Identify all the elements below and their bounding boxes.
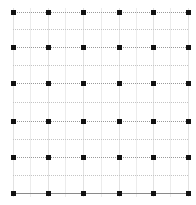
- lattice-point: [186, 10, 191, 15]
- lattice-point: [186, 81, 191, 86]
- grid-horizontal-minor-line: [13, 175, 188, 176]
- lattice-point: [151, 119, 156, 124]
- grid-horizontal-line: [13, 193, 188, 194]
- lattice-point: [81, 155, 86, 160]
- grid-horizontal-minor-line: [13, 29, 188, 30]
- dot-lattice-diagram: [0, 0, 196, 205]
- lattice-point: [81, 10, 86, 15]
- lattice-point: [151, 81, 156, 86]
- grid-horizontal-line: [13, 157, 188, 158]
- lattice-point: [46, 45, 51, 50]
- lattice-point: [11, 119, 16, 124]
- lattice-point: [117, 81, 122, 86]
- lattice-point: [11, 155, 16, 160]
- lattice-point: [151, 45, 156, 50]
- lattice-point: [46, 119, 51, 124]
- lattice-point: [11, 191, 16, 196]
- lattice-point: [117, 119, 122, 124]
- lattice-point: [117, 10, 122, 15]
- grid-horizontal-minor-line: [13, 139, 188, 140]
- grid-horizontal-line: [13, 121, 188, 122]
- lattice-point: [151, 155, 156, 160]
- lattice-point: [117, 191, 122, 196]
- lattice-point: [46, 81, 51, 86]
- lattice-point: [117, 45, 122, 50]
- grid-vertical-line: [188, 8, 189, 197]
- lattice-point: [46, 191, 51, 196]
- lattice-point: [11, 10, 16, 15]
- lattice-point: [11, 45, 16, 50]
- grid-horizontal-minor-line: [13, 65, 188, 66]
- lattice-point: [186, 119, 191, 124]
- lattice-point: [151, 10, 156, 15]
- lattice-point: [151, 191, 156, 196]
- lattice-point: [81, 119, 86, 124]
- lattice-point: [81, 45, 86, 50]
- lattice-point: [46, 10, 51, 15]
- lattice-point: [186, 45, 191, 50]
- lattice-point: [117, 155, 122, 160]
- grid-horizontal-minor-line: [13, 102, 188, 103]
- grid-horizontal-line: [13, 47, 188, 48]
- grid-horizontal-line: [13, 12, 188, 13]
- lattice-point: [186, 191, 191, 196]
- lattice-point: [81, 191, 86, 196]
- lattice-point: [11, 81, 16, 86]
- lattice-point: [81, 81, 86, 86]
- lattice-point: [186, 155, 191, 160]
- lattice-point: [46, 155, 51, 160]
- grid-horizontal-line: [13, 83, 188, 84]
